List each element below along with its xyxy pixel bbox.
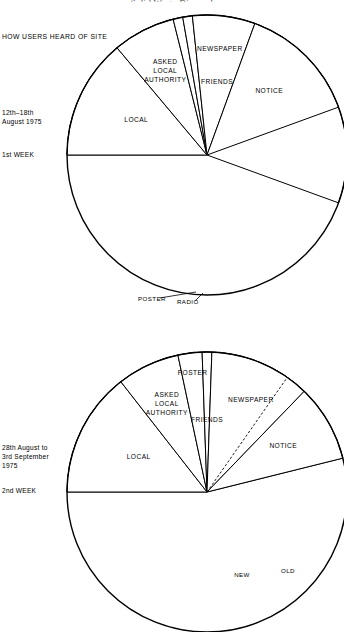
pie-chart-week-2: FRIENDSLOCALASKEDLOCALAUTHORITYPOSTERNEW… [67, 352, 344, 632]
slice-label-local: LOCAL [124, 116, 148, 123]
pie-charts-canvas: FRIENDSLOCALASKEDLOCALAUTHORITYNEWSPAPER… [0, 0, 344, 632]
sub-label-new: NEW [234, 571, 250, 578]
leader-label-radio: RADIO [177, 298, 199, 305]
slice-label-notice: NOTICE [269, 442, 297, 449]
slice-label-newspaper: NEWSPAPER [197, 45, 243, 52]
sub-label-old: OLD [281, 567, 295, 574]
slice-label-friends: FRIENDS [201, 78, 233, 85]
leader-label-poster: POSTER [138, 295, 166, 302]
pie-chart-week-1: FRIENDSLOCALASKEDLOCALAUTHORITYNEWSPAPER… [67, 15, 344, 305]
slice-label-friends: FRIENDS [191, 416, 223, 423]
slice-label-newspaper: NEWSPAPER [228, 396, 274, 403]
slice-label-notice: NOTICE [255, 87, 283, 94]
figure-page: Solid Waste Disposal HOW USERS HEARD OF … [0, 0, 344, 632]
slice-label-poster: POSTER [178, 369, 208, 376]
slice-label-local: LOCAL [127, 453, 151, 460]
